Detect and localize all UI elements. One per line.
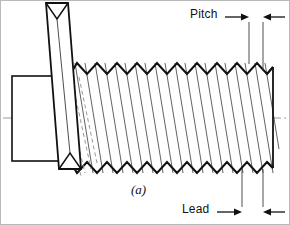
lead-dimension [217, 169, 285, 215]
pitch-arrow-right-icon [225, 14, 249, 21]
thread-envelope-fill [73, 63, 273, 173]
figure-screw-thread-diagram: Pitch Lead (a) [0, 0, 290, 225]
figure-caption: (a) [131, 182, 146, 198]
pitch-label: Pitch [190, 7, 218, 21]
lead-arrow-right-icon [217, 209, 242, 216]
thread-body [71, 63, 279, 173]
lead-label: Lead [182, 202, 210, 216]
pitch-arrow-left-icon [263, 14, 285, 21]
pitch-dimension [225, 14, 285, 71]
lead-arrow-left-icon [263, 209, 285, 216]
